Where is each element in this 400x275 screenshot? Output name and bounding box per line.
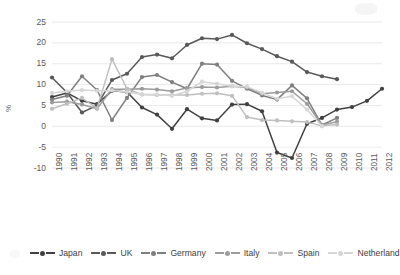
x-tick-label: 1993 bbox=[100, 153, 109, 171]
legend-label: Italy bbox=[244, 248, 260, 258]
y-tick-label: 0 bbox=[22, 121, 46, 131]
x-tick-label: 2012 bbox=[385, 153, 394, 171]
x-tick-label: 2007 bbox=[310, 153, 319, 171]
legend-marker-icon bbox=[225, 251, 230, 256]
legend-item-spain[interactable]: Spain bbox=[268, 248, 319, 258]
legend-marker-icon bbox=[40, 251, 45, 256]
x-tick-label: 2006 bbox=[295, 153, 304, 171]
legend-marker-icon bbox=[101, 251, 106, 256]
x-tick-label: 2004 bbox=[265, 153, 274, 171]
legend-line-icon bbox=[107, 252, 116, 254]
legend-line-icon bbox=[284, 252, 293, 254]
x-tick-label: 2008 bbox=[325, 153, 334, 171]
legend-line-icon bbox=[91, 252, 100, 254]
legend-item-uk[interactable]: UK bbox=[91, 248, 132, 258]
legend-label: Japan bbox=[59, 248, 82, 258]
legend-marker-icon bbox=[151, 251, 156, 256]
x-tick-label: 1998 bbox=[175, 153, 184, 171]
legend-line-icon bbox=[215, 252, 224, 254]
legend-item-italy[interactable]: Italy bbox=[215, 248, 260, 258]
y-tick-label: 10 bbox=[22, 79, 46, 89]
y-axis-title: % bbox=[4, 105, 13, 112]
legend-label: Netherland bbox=[357, 248, 399, 258]
y-tick-label: 5 bbox=[22, 100, 46, 110]
x-tick-label: 1991 bbox=[70, 153, 79, 171]
legend-label: UK bbox=[120, 248, 132, 258]
x-tick-label: 1997 bbox=[160, 153, 169, 171]
legend-line-icon bbox=[157, 252, 166, 254]
y-tick-label: 20 bbox=[22, 37, 46, 47]
legend-item-japan[interactable]: Japan bbox=[30, 248, 82, 258]
x-tick-label: 2002 bbox=[235, 153, 244, 171]
legend-marker-icon bbox=[338, 251, 343, 256]
x-tick-label: 1994 bbox=[115, 153, 124, 171]
legend-line-icon bbox=[328, 252, 337, 254]
legend-marker-icon bbox=[278, 251, 283, 256]
x-tick-label: 2000 bbox=[205, 153, 214, 171]
legend-line-icon bbox=[46, 252, 55, 254]
x-tick-label: 1999 bbox=[190, 153, 199, 171]
legend-line-icon bbox=[141, 252, 150, 254]
legend-item-netherland[interactable]: Netherland bbox=[328, 248, 399, 258]
x-tick-label: 2005 bbox=[280, 153, 289, 171]
legend-line-icon bbox=[268, 252, 277, 254]
y-tick-label: 15 bbox=[22, 58, 46, 68]
y-tick-label: 25 bbox=[22, 17, 46, 27]
x-tick-label: 1992 bbox=[85, 153, 94, 171]
y-tick-label: -5 bbox=[22, 142, 46, 152]
legend-label: Germany bbox=[170, 248, 205, 258]
x-tick-label: 1990 bbox=[55, 153, 64, 171]
legend-item-germany[interactable]: Germany bbox=[141, 248, 205, 258]
x-tick-label: 2010 bbox=[355, 153, 364, 171]
x-tick-label: 2001 bbox=[220, 153, 229, 171]
legend-label: Spain bbox=[297, 248, 319, 258]
chart-legend: JapanUKGermanyItalySpainNetherland bbox=[30, 248, 400, 258]
x-tick-label: 2009 bbox=[340, 153, 349, 171]
legend-line-icon bbox=[231, 252, 240, 254]
legend-line-icon bbox=[30, 252, 39, 254]
y-tick-label: -10 bbox=[22, 163, 46, 173]
x-tick-label: 2003 bbox=[250, 153, 259, 171]
x-tick-label: 1996 bbox=[145, 153, 154, 171]
x-tick-label: 1995 bbox=[130, 153, 139, 171]
legend-line-icon bbox=[344, 252, 353, 254]
x-tick-label: 2011 bbox=[370, 153, 379, 171]
